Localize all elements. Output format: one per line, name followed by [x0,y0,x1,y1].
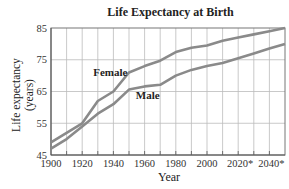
x-tick-label: 2020* [227,158,253,169]
x-tick-label: 1900 [41,158,62,169]
series-label-female: Female [93,66,127,78]
y-tick-label: 55 [37,118,48,129]
x-tick-label: 2040* [258,158,284,169]
y-tick-label: 65 [37,86,48,97]
data-series [51,28,285,149]
series-labels: FemaleMale [93,66,160,102]
x-tick-label: 1960 [134,158,155,169]
x-tick-label: 1980 [165,158,186,169]
x-tick-label: 1920 [72,158,93,169]
x-tick-label: 2000 [197,158,218,169]
series-line-female [51,28,285,142]
line-chart: 45556575851900192019401960198020002020*2… [0,0,289,189]
y-tick-label: 85 [37,23,48,34]
grid-lines [51,28,285,155]
series-label-male: Male [136,89,160,101]
y-tick-label: 75 [37,54,48,65]
x-tick-label: 1940 [103,158,124,169]
